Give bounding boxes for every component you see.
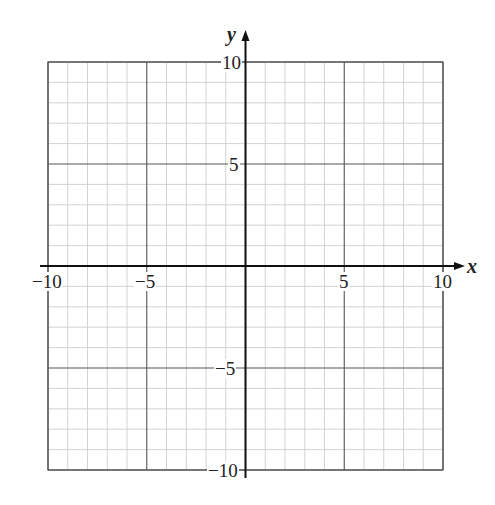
x-tick-label-neg5: −5	[134, 272, 156, 291]
y-axis-label: y	[227, 24, 236, 44]
x-axis-arrow-icon	[454, 262, 465, 270]
coordinate-plane	[0, 0, 495, 505]
y-tick-label-neg10: −10	[207, 461, 239, 480]
x-tick-label-neg10: −10	[31, 272, 63, 291]
x-tick-label-5: 5	[338, 272, 350, 291]
x-tick-label-10: 10	[432, 272, 453, 291]
y-axis-arrow-icon	[242, 30, 250, 41]
y-tick-label-5: 5	[228, 155, 240, 174]
y-tick-label-neg5: −5	[214, 359, 236, 378]
x-axis-label: x	[467, 256, 477, 276]
y-tick-label-10: 10	[221, 53, 242, 72]
